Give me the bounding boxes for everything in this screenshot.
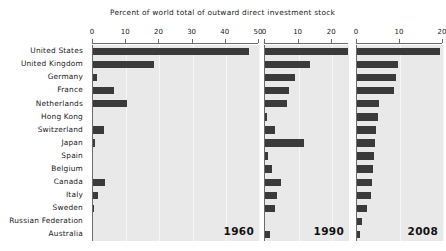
- bar: [93, 61, 154, 68]
- bar: [265, 192, 277, 199]
- bar: [93, 100, 127, 107]
- category-label: Australia: [49, 228, 84, 241]
- bar: [265, 179, 281, 186]
- value-axis-tick: [92, 39, 93, 43]
- bar: [265, 48, 348, 55]
- category-label: United Kingdom: [21, 58, 83, 71]
- bar: [357, 100, 379, 107]
- value-axis-tick: [356, 39, 357, 43]
- bar: [93, 192, 98, 199]
- bar: [357, 139, 375, 146]
- chart-title: Percent of world total of outward direct…: [0, 8, 445, 17]
- bar: [93, 48, 249, 55]
- bar: [265, 87, 289, 94]
- chart-panel-1960: 1960: [92, 45, 259, 241]
- category-label: France: [57, 84, 83, 97]
- bar: [93, 87, 114, 94]
- chart-panel-1990: 1990: [264, 45, 349, 241]
- bar: [265, 126, 275, 133]
- bar: [357, 126, 376, 133]
- value-axis-tick-label: 10: [121, 28, 130, 36]
- category-label: Japan: [61, 137, 83, 150]
- value-axis-tick: [331, 39, 332, 43]
- bar: [265, 231, 270, 238]
- value-axis-tick: [399, 39, 400, 43]
- panel-year-label: 2008: [408, 225, 438, 237]
- bar: [357, 218, 362, 225]
- gridline: [259, 45, 260, 241]
- bar: [93, 139, 95, 146]
- gridline: [443, 45, 444, 241]
- value-axis-line: [92, 43, 258, 44]
- bar: [265, 74, 295, 81]
- value-axis-tick: [225, 39, 226, 43]
- bar: [265, 152, 268, 159]
- value-axis-tick: [192, 39, 193, 43]
- bar: [265, 100, 287, 107]
- value-axis-tick: [442, 39, 443, 43]
- gridline: [332, 45, 333, 241]
- bar: [93, 179, 105, 186]
- bar: [265, 61, 310, 68]
- chart-panel-2008: 2008: [356, 45, 443, 241]
- value-axis-tick-label: 10: [293, 28, 302, 36]
- bar: [357, 113, 378, 120]
- value-axis-tick: [298, 39, 299, 43]
- gridline: [193, 45, 194, 241]
- bar: [357, 205, 367, 212]
- value-axis-line: [356, 43, 442, 44]
- category-label: Canada: [54, 176, 83, 189]
- bar: [357, 61, 398, 68]
- value-axis-tick-label: 20: [154, 28, 163, 36]
- bar: [357, 48, 440, 55]
- panel-year-label: 1960: [224, 225, 254, 237]
- bar: [265, 139, 304, 146]
- bar: [265, 113, 267, 120]
- bar: [93, 205, 94, 212]
- gridline: [400, 45, 401, 241]
- bar: [357, 87, 394, 94]
- value-axis-tick-label: 0: [262, 28, 266, 36]
- category-label: Belgium: [51, 163, 83, 176]
- panel-year-label: 1990: [314, 225, 344, 237]
- value-axis-tick-label: 20: [438, 28, 446, 36]
- value-axis-tick: [125, 39, 126, 43]
- value-axis-tick-label: 0: [90, 28, 94, 36]
- gridline: [126, 45, 127, 241]
- category-label: Germany: [48, 71, 83, 84]
- category-label: Hong Kong: [41, 111, 83, 124]
- gridline: [226, 45, 227, 241]
- category-label: Netherlands: [36, 98, 83, 111]
- bar: [357, 192, 371, 199]
- category-label: Sweden: [53, 202, 83, 215]
- value-axis-tick-label: 30: [187, 28, 196, 36]
- bar: [357, 165, 373, 172]
- value-axis-line: [264, 43, 348, 44]
- value-axis-tick-label: 10: [395, 28, 404, 36]
- bar: [357, 74, 396, 81]
- bar: [357, 152, 374, 159]
- bar: [93, 74, 97, 81]
- value-axis-tick: [258, 39, 259, 43]
- category-label: Switzerland: [38, 124, 83, 137]
- value-axis-tick-label: 0: [354, 28, 358, 36]
- bar: [93, 126, 104, 133]
- bar: [265, 165, 272, 172]
- category-label: United States: [30, 45, 83, 58]
- value-axis-tick: [158, 39, 159, 43]
- category-axis-labels: United StatesUnited KingdomGermanyFrance…: [0, 45, 88, 241]
- bar: [357, 231, 360, 238]
- category-label: Russian Federation: [9, 215, 83, 228]
- value-axis-tick-label: 20: [327, 28, 336, 36]
- category-label: Spain: [61, 150, 83, 163]
- bar: [357, 179, 372, 186]
- bar: [265, 205, 275, 212]
- gridline: [159, 45, 160, 241]
- value-axis-tick-label: 40: [220, 28, 229, 36]
- value-axis-tick: [264, 39, 265, 43]
- category-label: Italy: [66, 189, 83, 202]
